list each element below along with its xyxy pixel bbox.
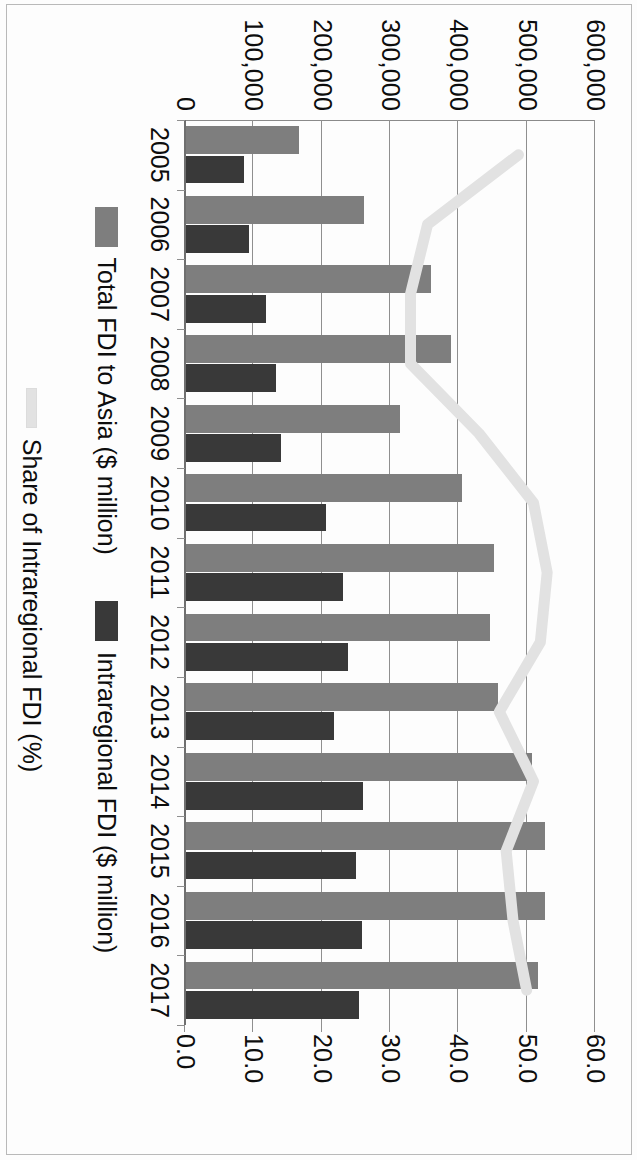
chart-legend: Total FDI to Asia ($ million)Intraregion… <box>17 50 121 1110</box>
x-axis-tick-label: 2016 <box>145 893 174 949</box>
y-axis-primary-tick-label: 0 <box>170 97 199 111</box>
x-axis-tick-label: 2011 <box>145 546 174 600</box>
y-axis-secondary-tickmark <box>389 1025 390 1032</box>
x-axis-tick-label: 2013 <box>145 684 174 740</box>
y-axis-secondary-tick-label: 0.0 <box>170 1034 199 1069</box>
x-axis-tickmark <box>177 677 185 678</box>
legend-label: Intraregional FDI ($ million) <box>92 652 121 954</box>
x-axis-tick-label: 2007 <box>145 266 174 322</box>
x-axis-tick-label: 2006 <box>145 197 174 253</box>
x-axis-tick-label: 2008 <box>145 336 174 392</box>
legend-swatch-intra-icon <box>95 601 118 641</box>
y-axis-secondary-tick-label: 60.0 <box>580 1034 609 1083</box>
y-axis-secondary-tick-label: 40.0 <box>443 1034 472 1083</box>
y-axis-secondary-tickmark <box>525 1025 526 1032</box>
y-axis-secondary-tickmark <box>184 1025 185 1032</box>
x-axis-tickmark <box>177 468 185 469</box>
x-axis-tickmark <box>177 1025 185 1026</box>
x-axis-tickmark <box>177 816 185 817</box>
x-axis-tick-label: 2012 <box>145 614 174 670</box>
plot-area: 0100,000200,000300,000400,000500,000600,… <box>185 120 595 1025</box>
x-axis-tick-label: 2010 <box>145 475 174 531</box>
x-axis-tick-label: 2015 <box>145 823 174 879</box>
y-axis-secondary-tick-label: 10.0 <box>238 1034 267 1083</box>
chart-figure: 0100,000200,000300,000400,000500,000600,… <box>19 50 619 1110</box>
y-axis-primary-tick-label: 100,000 <box>238 19 267 111</box>
y-axis-primary-tick-label: 400,000 <box>443 19 472 111</box>
legend-label: Total FDI to Asia ($ million) <box>92 258 121 555</box>
x-axis-tickmark <box>177 747 185 748</box>
y-axis-primary-tick-label: 600,000 <box>580 19 609 111</box>
y-axis-secondary-tickmark <box>320 1025 321 1032</box>
rotated-figure-wrapper: 0100,000200,000300,000400,000500,000600,… <box>19 50 619 1110</box>
share-line-series <box>185 120 595 1025</box>
legend-item: Intraregional FDI ($ million) <box>92 601 121 954</box>
x-axis-tick-label: 2017 <box>145 962 174 1018</box>
x-axis-tickmark <box>177 607 185 608</box>
x-axis-tickmark <box>177 538 185 539</box>
legend-item: Total FDI to Asia ($ million) <box>92 207 121 555</box>
legend-swatch-total-icon <box>95 207 118 247</box>
x-axis-tick-label: 2014 <box>145 754 174 810</box>
y-axis-primary-tick-label: 500,000 <box>512 19 541 111</box>
legend-swatch-share-icon <box>26 388 37 428</box>
chart-page: 0100,000200,000300,000400,000500,000600,… <box>0 0 637 1160</box>
x-axis-tickmark <box>177 259 185 260</box>
y-axis-secondary-tick-label: 30.0 <box>375 1034 404 1083</box>
share-line-path <box>410 155 547 990</box>
x-axis-tick-label: 2005 <box>145 127 174 183</box>
x-axis-tickmark <box>177 190 185 191</box>
y-axis-primary-tick-label: 300,000 <box>375 19 404 111</box>
x-axis-tickmark <box>177 398 185 399</box>
y-axis-secondary-tickmark <box>594 1025 595 1032</box>
x-axis-line <box>185 120 186 1025</box>
y-axis-secondary-tickmark <box>457 1025 458 1032</box>
x-axis-tickmark <box>177 120 185 121</box>
legend-label: Share of Intraregional FDI (%) <box>17 439 46 772</box>
y-axis-secondary-tickmark <box>252 1025 253 1032</box>
y-axis-primary-tick-label: 200,000 <box>307 19 336 111</box>
legend-item: Share of Intraregional FDI (%) <box>17 388 46 772</box>
x-axis-tickmark <box>177 329 185 330</box>
x-axis-tick-label: 2009 <box>145 405 174 461</box>
y-axis-secondary-tick-label: 20.0 <box>307 1034 336 1083</box>
x-axis-tickmark <box>177 955 185 956</box>
y-axis-secondary-tick-label: 50.0 <box>512 1034 541 1083</box>
x-axis-tickmark <box>177 886 185 887</box>
